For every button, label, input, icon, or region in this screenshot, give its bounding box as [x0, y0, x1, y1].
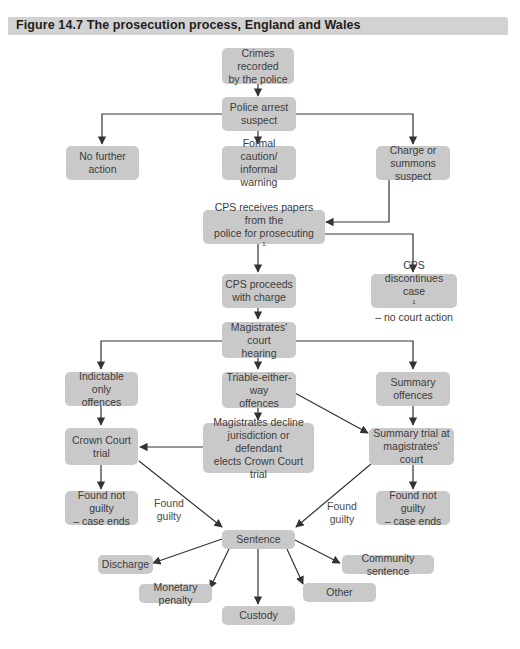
- footnote-marker: 1: [262, 241, 265, 247]
- node-text: Police arrest: [230, 101, 288, 114]
- node-discharge: Discharge: [98, 555, 153, 574]
- node-text: Discharge: [102, 558, 149, 571]
- node-custody: Custody: [222, 606, 295, 625]
- node-formal-caution: Formal caution/informal warning: [222, 146, 296, 180]
- footnote-marker: 1: [412, 298, 415, 304]
- edge-label-text: guilty: [325, 513, 359, 526]
- node-text: Charge or: [379, 144, 447, 157]
- node-text: offences: [68, 396, 135, 409]
- node-text: hearing: [225, 347, 293, 360]
- node-not-guilty-right: Found not guilty– case ends: [376, 491, 450, 525]
- node-indictable-only: Indictable onlyoffences: [65, 372, 138, 406]
- edge-label-found-guilty-left: Found guilty: [152, 497, 186, 523]
- node-text: Custody: [239, 609, 278, 622]
- node-text: Indictable only: [68, 370, 135, 396]
- node-text: elects Crown Court trial: [206, 455, 311, 481]
- node-text: – no court action: [374, 311, 454, 324]
- node-text: magistrates' court: [372, 440, 451, 466]
- node-text: Community sentence: [345, 552, 431, 578]
- node-cps-proceeds: CPS proceedswith charge: [222, 274, 296, 308]
- node-crown-court-trial: Crown Courttrial: [65, 428, 138, 465]
- node-text: No further action: [69, 150, 136, 176]
- node-text: Found not guilty: [68, 489, 135, 515]
- node-text: CPS discontinues case: [374, 259, 454, 298]
- node-monetary-penalty: Monetary penalty: [139, 584, 212, 603]
- node-cps-discontinues: CPS discontinues case1– no court action: [371, 274, 457, 308]
- node-text: Summary: [391, 376, 436, 389]
- node-no-further-action: No further action: [66, 146, 139, 180]
- node-text: Summary trial at: [372, 427, 451, 440]
- node-text: Triable-either-way: [225, 371, 293, 397]
- node-text: with charge: [225, 291, 293, 304]
- node-sentence: Sentence: [222, 530, 295, 549]
- edge-label-text: Found: [152, 497, 186, 510]
- edge-label-text: Found: [325, 500, 359, 513]
- node-magistrates-decline: Magistrates declinejurisdiction or defen…: [203, 423, 314, 473]
- node-text: police for prosecuting: [206, 227, 322, 240]
- node-community-sentence: Community sentence: [342, 555, 434, 574]
- node-text: Magistrates decline: [206, 416, 311, 429]
- node-summary-offences: Summaryoffences: [376, 372, 450, 406]
- node-charge-summons: Charge orsummons suspect: [376, 146, 450, 180]
- node-crimes-recorded: Crimes recordedby the police: [222, 48, 294, 84]
- node-text: Magistrates' court: [225, 321, 293, 347]
- node-magistrates-hearing: Magistrates' courthearing: [222, 322, 296, 358]
- node-text: informal warning: [225, 163, 293, 189]
- node-police-arrest: Police arrestsuspect: [222, 97, 296, 131]
- node-text: Sentence: [236, 533, 280, 546]
- edge-label-text: guilty: [152, 510, 186, 523]
- node-text: by the police: [225, 73, 291, 86]
- node-text: offences: [225, 397, 293, 410]
- node-text: jurisdiction or defendant: [206, 429, 311, 455]
- node-text: suspect: [230, 114, 288, 127]
- node-not-guilty-left: Found not guilty– case ends: [65, 491, 138, 525]
- node-text: offences: [391, 389, 436, 402]
- node-text: CPS receives papers from the: [206, 201, 322, 227]
- node-other: Other: [303, 583, 376, 602]
- node-text: Found not guilty: [379, 489, 447, 515]
- node-text: CPS proceeds: [225, 278, 293, 291]
- node-cps-receives: CPS receives papers from thepolice for p…: [203, 210, 325, 244]
- node-text: – case ends: [68, 515, 135, 528]
- node-triable-either-way: Triable-either-wayoffences: [222, 372, 296, 408]
- node-text: Monetary penalty: [142, 581, 209, 607]
- node-text: Formal caution/: [225, 137, 293, 163]
- edge-label-found-guilty-right: Found guilty: [325, 500, 359, 526]
- node-text: Crown Court: [72, 434, 131, 447]
- node-summary-trial: Summary trial atmagistrates' court: [369, 428, 454, 465]
- node-text: trial: [72, 447, 131, 460]
- node-text: Other: [326, 586, 352, 599]
- node-text: Crimes recorded: [225, 47, 291, 73]
- node-text: – case ends: [379, 515, 447, 528]
- node-text: summons suspect: [379, 157, 447, 183]
